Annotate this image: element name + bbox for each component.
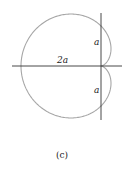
label-a-upper: a — [94, 37, 99, 47]
label-a-lower: a — [94, 85, 99, 95]
cardioid-diagram: 2a a a (c) — [0, 0, 127, 169]
figure-caption: (c) — [56, 150, 68, 160]
label-2a: 2a — [56, 55, 68, 65]
